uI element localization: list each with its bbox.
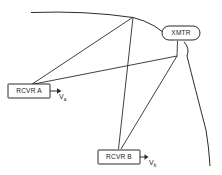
right-arc-lower: [206, 130, 210, 166]
rcvr-b-label: RCVR B: [106, 153, 132, 160]
link-xmtr-to-right-junction: [177, 41, 178, 57]
node-rcvr-b[interactable]: RCVR B: [98, 150, 140, 164]
diagram-canvas: RCVR A RCVR B XMTR Va Vb: [0, 0, 222, 175]
velocity-label-b: Vb: [149, 159, 157, 168]
upper-arc-tail-segment: [184, 42, 188, 56]
node-xmtr[interactable]: XMTR: [162, 26, 200, 40]
vb-arrow-head: [145, 154, 149, 159]
velocity-label-a: Va: [59, 93, 67, 102]
right-arc-upper: [187, 56, 206, 130]
node-rcvr-a[interactable]: RCVR A: [8, 84, 50, 98]
va-subscript: a: [64, 97, 67, 102]
diagram-svg: RCVR A RCVR B XMTR Va Vb: [0, 0, 222, 175]
rcvr-a-label: RCVR A: [16, 87, 42, 94]
link-top-vertex-to-rcvrb: [119, 18, 134, 150]
upper-arc-left-segment: [31, 12, 133, 17]
vb-subscript: b: [154, 163, 157, 168]
link-group: [32, 18, 178, 150]
xmtr-label: XMTR: [171, 29, 190, 36]
velocity-arrow-b: [140, 154, 149, 159]
link-rcvrb-to-right-junction: [121, 56, 177, 149]
